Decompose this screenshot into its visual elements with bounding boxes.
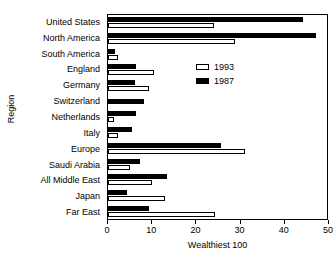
x-tick-label: 0 — [104, 225, 109, 235]
bar-1987 — [108, 190, 127, 195]
legend: 19931987 — [196, 60, 256, 88]
bar-1993 — [108, 212, 215, 217]
x-tick-label: 30 — [235, 225, 245, 235]
bar-group — [108, 203, 327, 219]
x-tick-label: 10 — [146, 225, 156, 235]
bar-1987 — [108, 143, 221, 148]
category-label: Far East — [6, 204, 104, 220]
bar-1993 — [108, 165, 130, 170]
category-label: South America — [6, 46, 104, 62]
bar-1993 — [108, 180, 152, 185]
category-label: North America — [6, 30, 104, 46]
bar-1993 — [108, 55, 118, 60]
bar-1987 — [108, 159, 140, 164]
bar-1993 — [108, 23, 214, 28]
bar-1987 — [108, 206, 149, 211]
bar-group — [108, 188, 327, 204]
bar-1993 — [108, 86, 149, 91]
x-tick-mark — [195, 220, 196, 224]
bar-1987 — [108, 174, 167, 179]
legend-label: 1993 — [214, 62, 234, 72]
legend-entry: 1993 — [196, 60, 256, 74]
bar-1987 — [108, 127, 132, 132]
bars-container — [108, 15, 327, 219]
x-axis: 01020304050 — [107, 220, 328, 240]
x-axis-title: Wealthiest 100 — [107, 240, 328, 250]
bar-1993 — [108, 39, 235, 44]
category-label: All Middle East — [6, 172, 104, 188]
category-label: Saudi Arabia — [6, 157, 104, 173]
bar-group — [108, 125, 327, 141]
bar-group — [108, 109, 327, 125]
bar-1987 — [108, 33, 316, 38]
x-tick-mark — [240, 220, 241, 224]
legend-label: 1987 — [214, 76, 234, 86]
bar-1987 — [108, 49, 115, 54]
category-label: England — [6, 62, 104, 78]
x-tick-label: 50 — [323, 225, 333, 235]
category-axis-labels: United StatesNorth AmericaSouth AmericaE… — [6, 14, 104, 220]
bar-1987 — [108, 64, 136, 69]
bar-1987 — [108, 80, 135, 85]
x-tick-label: 40 — [279, 225, 289, 235]
category-label: Japan — [6, 188, 104, 204]
x-tick-mark — [151, 220, 152, 224]
legend-entry: 1987 — [196, 74, 256, 88]
bar-1993 — [108, 196, 165, 201]
bar-group — [108, 156, 327, 172]
x-tick-label: 20 — [190, 225, 200, 235]
category-label: Germany — [6, 77, 104, 93]
x-tick-mark — [284, 220, 285, 224]
category-label: Netherlands — [6, 109, 104, 125]
bar-group — [108, 172, 327, 188]
bar-1993 — [108, 70, 154, 75]
bar-1993 — [108, 149, 245, 154]
bar-1987 — [108, 17, 303, 22]
x-tick-mark — [107, 220, 108, 224]
category-label: United States — [6, 14, 104, 30]
legend-swatch-icon — [196, 64, 209, 70]
plot-area — [107, 14, 328, 220]
bar-group — [108, 31, 327, 47]
legend-swatch-icon — [196, 78, 209, 84]
x-tick-mark — [328, 220, 329, 224]
category-label: Italy — [6, 125, 104, 141]
bar-group — [108, 141, 327, 157]
category-label: Europe — [6, 141, 104, 157]
bar-group — [108, 93, 327, 109]
bar-1987 — [108, 111, 136, 116]
bar-1987 — [108, 99, 144, 104]
bar-1993 — [108, 117, 114, 122]
bar-1993 — [108, 133, 118, 138]
bar-group — [108, 15, 327, 31]
category-label: Switzerland — [6, 93, 104, 109]
